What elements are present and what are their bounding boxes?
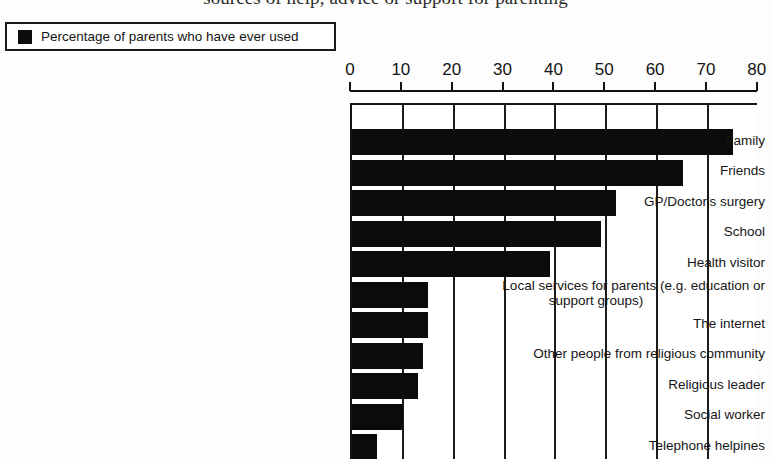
category-label-line: The internet: [427, 316, 765, 331]
bar: [352, 434, 377, 459]
category-label-line: Family: [427, 133, 765, 148]
x-tick-80: [756, 82, 758, 91]
x-tick-20: [451, 82, 453, 91]
category-label-line: Other people from religious community: [427, 346, 765, 361]
x-tick-50: [603, 82, 605, 91]
category-label: Family: [427, 133, 771, 148]
x-tick-label-80: 80: [747, 60, 766, 80]
bar: [352, 373, 418, 399]
x-tick-30: [502, 82, 504, 91]
category-label: Other people from religious community: [427, 346, 771, 361]
x-tick-label-0: 0: [345, 60, 354, 80]
x-tick-10: [400, 82, 402, 91]
bar: [352, 404, 403, 430]
category-label: Local services for parents (e.g. educati…: [427, 278, 771, 308]
category-label-line: Local services for parents (e.g. educati…: [427, 278, 765, 293]
chart-legend: Percentage of parents who have ever used: [5, 22, 336, 51]
category-label: GP/Doctor's surgery: [427, 194, 771, 209]
x-tick-label-20: 20: [442, 60, 461, 80]
legend-label: Percentage of parents who have ever used: [41, 29, 298, 44]
category-label: Friends: [427, 163, 771, 178]
x-tick-0: [349, 82, 351, 91]
category-label-line: support groups): [427, 293, 765, 308]
filled-square-icon: [18, 30, 32, 44]
bar: [352, 312, 428, 338]
category-label-line: GP/Doctor's surgery: [427, 194, 765, 209]
category-label: School: [427, 224, 771, 239]
category-label-line: Religious leader: [427, 377, 765, 392]
x-tick-40: [552, 82, 554, 91]
x-tick-label-30: 30: [493, 60, 512, 80]
x-tick-60: [654, 82, 656, 91]
category-label: Health visitor: [427, 255, 771, 270]
x-tick-label-60: 60: [646, 60, 665, 80]
category-label: Social worker: [427, 407, 771, 422]
category-label-line: Telephone helpines: [427, 438, 765, 453]
x-tick-label-10: 10: [391, 60, 410, 80]
category-label: The internet: [427, 316, 771, 331]
x-tick-70: [705, 82, 707, 91]
category-label-line: School: [427, 224, 765, 239]
category-label: Telephone helpines: [427, 438, 771, 453]
x-tick-label-50: 50: [595, 60, 614, 80]
category-label-line: Social worker: [427, 407, 765, 422]
category-label: Religious leader: [427, 377, 771, 392]
bar: [352, 282, 428, 308]
category-label-line: Friends: [427, 163, 765, 178]
chart-title: sources of help, advice or support for p…: [0, 0, 771, 9]
bar: [352, 343, 423, 369]
chart-page: sources of help, advice or support for p…: [0, 0, 771, 459]
x-tick-label-70: 70: [696, 60, 715, 80]
x-tick-label-40: 40: [544, 60, 563, 80]
category-label-line: Health visitor: [427, 255, 765, 270]
